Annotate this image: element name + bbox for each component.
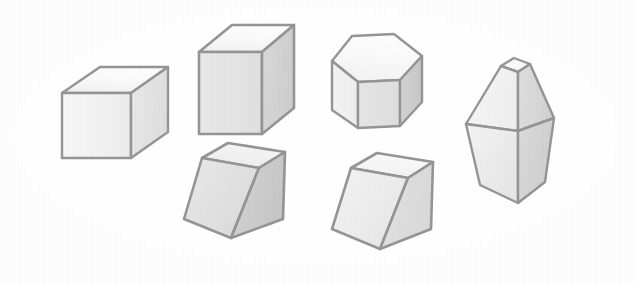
figure-texture-overlay xyxy=(0,0,634,285)
figure-canvas xyxy=(0,0,634,285)
crystal-forms-figure xyxy=(0,0,634,285)
